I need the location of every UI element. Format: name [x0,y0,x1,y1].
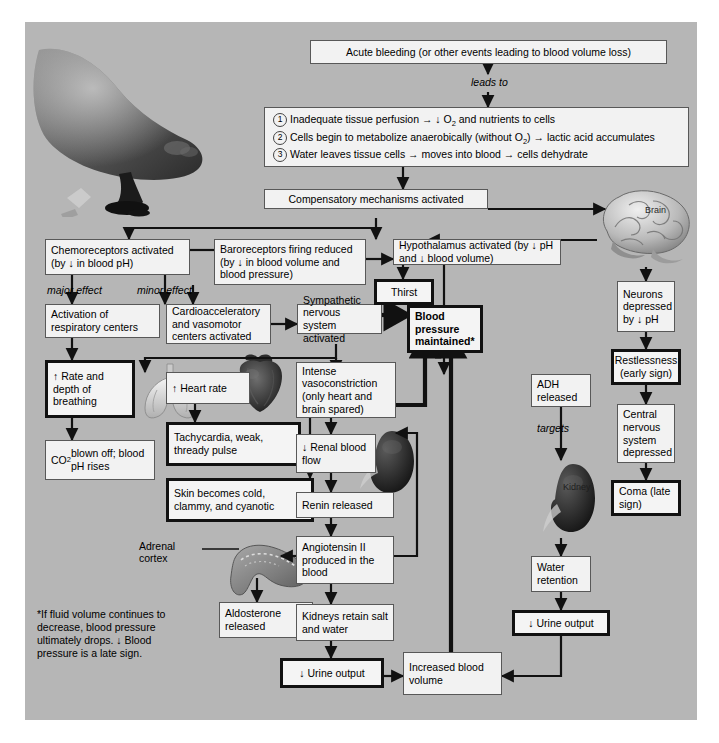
node-thirst: Thirst [374,279,434,305]
consequence-item-2: 2Cells begin to metabolize anaerobically… [273,131,680,149]
node-neurons-depressed: Neurons depressed by ↓ pH [617,281,675,332]
node-cns-depressed: Central nervous system depressed [617,404,675,463]
node-skin-cold: Skin becomes cold, clammy, and cyanotic [166,478,314,522]
bullet-number-3: 3 [273,148,287,162]
node-respiratory-centers: Activation of respiratory centers [45,304,160,338]
label-minor-effect: minor effect [137,284,192,296]
figure-canvas: Brain [0,0,719,743]
node-rate-depth-breathing: ↑ Rate and depth of breathing [45,360,135,418]
consequence-text-1: Inadequate tissue perfusion → ↓ O2 and n… [290,113,555,125]
consequence-item-1: 1Inadequate tissue perfusion → ↓ O2 and … [273,113,680,131]
node-tachycardia: Tachycardia, weak, thready pulse [166,422,301,466]
node-sympathetic-nervous-system: Sympathetic nervous system activated [297,304,382,334]
node-angiotensin-ii: Angiotensin II produced in the blood [296,536,394,584]
node-consequences: 1Inadequate tissue perfusion → ↓ O2 and … [264,107,689,167]
bullet-number-2: 2 [273,131,287,145]
node-hypothalamus: Hypothalamus activated (by ↓ pH and ↓ bl… [393,239,561,265]
consequence-item-3: 3Water leaves tissue cells → moves into … [273,148,680,162]
node-coma: Coma (late sign) [611,480,681,516]
node-adh-released: ADH released [531,374,591,407]
node-renal-blood-flow: ↓ Renal blood flow [296,434,376,473]
label-adrenal-cortex: Adrenal cortex [139,540,201,564]
node-heart-rate: ↑ Heart rate [166,372,250,404]
node-urine-output-right: ↓ Urine output [512,610,610,636]
node-baroreceptors: Baroreceptors firing reduced (by ↓ in bl… [214,239,366,285]
node-chemoreceptors: Chemoreceptors activated (by ↓ in blood … [45,239,190,275]
node-urine-output-left: ↓ Urine output [280,658,384,688]
node-increased-blood-volume: Increased blood volume [403,652,502,695]
node-acute-bleeding: Acute bleeding (or other events leading … [310,40,667,64]
consequence-text-2: Cells begin to metabolize anaerobically … [290,131,655,143]
node-intense-vasoconstriction: Intense vasoconstriction (only heart and… [296,362,396,418]
label-major-effect: major effect [47,284,102,296]
label-leads-to: leads to [471,76,508,88]
node-co2-blown-off: CO2 blown off; blood pH rises [45,440,155,480]
node-blood-pressure-maintained: Blood pressure maintained* [407,305,483,353]
node-compensatory-mechanisms: Compensatory mechanisms activated [264,189,488,209]
label-targets: targets [537,422,569,434]
footnote-text: *If fluid volume continues to decrease, … [37,608,187,660]
consequence-text-3: Water leaves tissue cells → moves into b… [290,148,588,160]
node-renin-released: Renin released [296,492,394,518]
node-restlessness: Restlessness (early sign) [611,349,681,385]
node-cardioacceleratory: Cardioacceleratory and vasomotor centers… [166,304,271,344]
node-kidneys-retain: Kidneys retain salt and water [296,604,394,641]
diagram-panel: Brain [25,22,697,720]
bullet-number-1: 1 [273,113,287,127]
node-water-retention: Water retention [531,556,591,592]
